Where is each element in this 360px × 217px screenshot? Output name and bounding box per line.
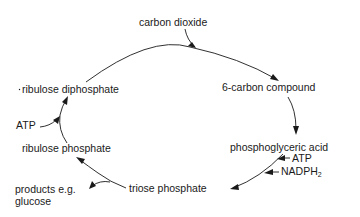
node-ribulose-phosphate: ribulose phosphate: [22, 142, 111, 154]
arrowhead-atp-ribulose-icon: [53, 116, 60, 124]
arrowhead-six-carbon-icon: [270, 74, 279, 81]
input-atp-ribulose: ATP: [16, 119, 36, 131]
dot-marker: [19, 89, 20, 90]
arrowhead-rudp-icon: [62, 96, 68, 105]
node-products: products e.g.: [15, 183, 76, 195]
arrow-pga-to-triose: [233, 154, 283, 188]
calvin-cycle-diagram: carbon dioxide 6-carbon compound phospho…: [0, 0, 360, 217]
input-nadph2: NADPH2: [281, 165, 322, 178]
nadph-label: NADPH: [281, 165, 318, 177]
node-carbon-dioxide: carbon dioxide: [139, 16, 207, 28]
node-phosphoglyceric-acid: phosphoglyceric acid: [230, 141, 328, 153]
node-ribulose-diphosphate: ribulose diphosphate: [22, 83, 119, 95]
atp-ribulose-input-line: [40, 120, 56, 127]
arrow-six-carbon-to-pga: [288, 97, 296, 129]
arrow-ribulose-phosphate-to-rudp: [60, 100, 67, 143]
arrowhead-products-icon: [89, 181, 96, 189]
node-products-glucose: glucose: [15, 195, 51, 207]
arrowhead-triose-icon: [230, 184, 239, 190]
arrow-triose-to-ribulose-phosphate: [80, 160, 126, 188]
node-triose-phosphate: triose phosphate: [129, 182, 207, 194]
arrowhead-pga-icon: [293, 126, 299, 135]
arc-rudp-to-six-carbon: [86, 45, 276, 82]
nadph-subscript: 2: [318, 171, 322, 178]
node-six-carbon-compound: 6-carbon compound: [222, 81, 316, 93]
input-atp-pga: ATP: [292, 152, 312, 164]
